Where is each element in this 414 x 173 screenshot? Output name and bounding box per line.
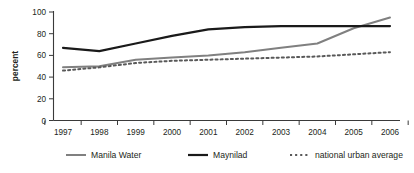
- x-tick-label-2003: 2003: [272, 128, 291, 137]
- x-tick-label-1998: 1998: [90, 128, 109, 137]
- x-tick-label-2005: 2005: [345, 128, 364, 137]
- y-tick-label-40: 40: [37, 73, 47, 82]
- y-axis: 020406080100: [32, 8, 53, 126]
- y-axis-label: percent: [10, 51, 20, 81]
- series-line-maynilad: [63, 26, 390, 51]
- x-tick-label-2002: 2002: [236, 128, 255, 137]
- x-tick-label-2006: 2006: [381, 128, 400, 137]
- x-axis-ticks: [45, 121, 408, 126]
- y-tick-label-20: 20: [37, 95, 47, 104]
- y-tick-label-60: 60: [37, 51, 47, 60]
- y-axis-tick-labels: 020406080100: [32, 8, 46, 126]
- x-axis-tick-labels: 1997199819992000200120022003200420052006: [54, 128, 400, 137]
- x-tick-label-2004: 2004: [308, 128, 327, 137]
- x-tick-label-2001: 2001: [199, 128, 218, 137]
- legend-label-maynilad: Maynilad: [213, 150, 248, 160]
- x-tick-label-1997: 1997: [54, 128, 73, 137]
- chart-canvas: 020406080100 199719981999200020012002200…: [0, 0, 414, 173]
- x-tick-label-2000: 2000: [163, 128, 182, 137]
- legend-label-national-urban-average: national urban average: [315, 150, 403, 160]
- y-tick-label-80: 80: [37, 30, 47, 39]
- y-tick-label-0: 0: [41, 117, 46, 126]
- series-line-national-urban-average: [63, 52, 390, 70]
- chart-legend: Manila WaterMayniladnational urban avera…: [66, 150, 403, 160]
- y-tick-label-100: 100: [32, 8, 46, 17]
- legend-label-manila-water: Manila Water: [91, 150, 141, 160]
- x-axis: 1997199819992000200120022003200420052006: [45, 121, 408, 138]
- x-tick-label-1999: 1999: [127, 128, 146, 137]
- data-series-group: [63, 17, 390, 70]
- line-chart: 020406080100 199719981999200020012002200…: [0, 0, 414, 173]
- y-axis-ticks: [49, 12, 54, 121]
